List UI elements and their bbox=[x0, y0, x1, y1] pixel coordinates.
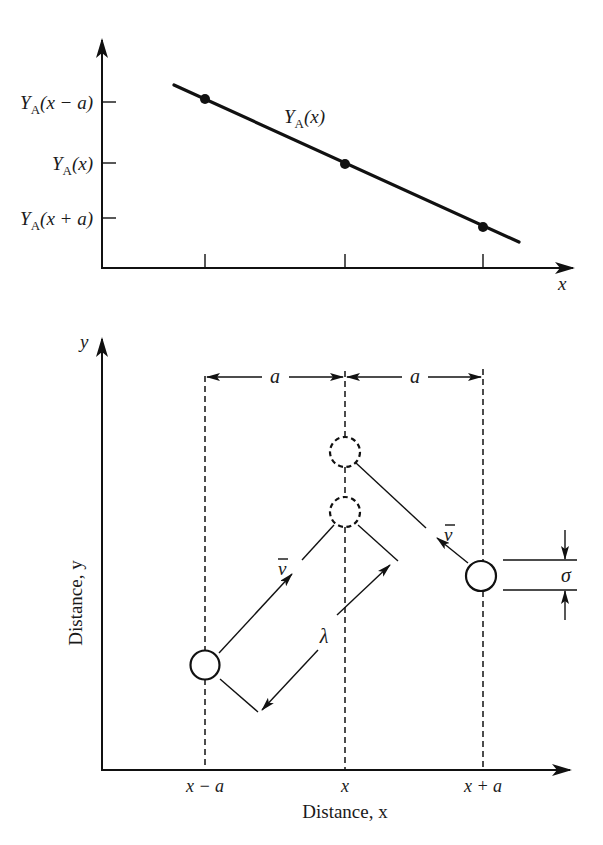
y-tick-label-3: YA(x + a) bbox=[20, 208, 93, 233]
y-axis-symbol: y bbox=[78, 331, 89, 352]
molecule-right bbox=[466, 561, 496, 591]
spacing-label-2: a bbox=[410, 365, 420, 387]
y-tick-label-1: YA(x − a) bbox=[20, 92, 93, 117]
data-point-1 bbox=[200, 94, 210, 104]
top-x-axis-label: x bbox=[557, 273, 567, 294]
velocity-path-right-upper bbox=[356, 463, 426, 528]
molecule-displaced-mid bbox=[330, 497, 360, 527]
velocity-label-right: v bbox=[444, 524, 453, 545]
molecular-transport-diagram: YA(x − a) YA(x) YA(x + a) YA(x) x y Dist… bbox=[0, 0, 603, 845]
x-tick-label-2: x bbox=[340, 776, 349, 796]
lambda-ext-bottom bbox=[220, 679, 258, 712]
top-plot: YA(x − a) YA(x) YA(x + a) YA(x) x bbox=[20, 40, 573, 294]
velocity-label-left: v bbox=[278, 558, 287, 579]
x-tick-label-3: x + a bbox=[463, 776, 502, 796]
molecule-origin bbox=[191, 651, 220, 680]
velocity-path-left bbox=[219, 574, 292, 653]
curve-label: YA(x) bbox=[284, 106, 325, 131]
x-axis-label: Distance, x bbox=[302, 801, 388, 822]
lambda-arrow-down bbox=[262, 650, 318, 710]
free-path-label: λ bbox=[319, 625, 329, 647]
x-tick-label-1: x − a bbox=[185, 776, 224, 796]
velocity-path-left-upper bbox=[302, 525, 334, 560]
diameter-label: σ bbox=[561, 564, 572, 586]
molecule-displaced-upper bbox=[330, 437, 360, 467]
bottom-plot: y Distance, y a a v λ bbox=[65, 331, 577, 822]
y-tick-label-2: YA(x) bbox=[52, 153, 93, 178]
data-point-3 bbox=[478, 222, 488, 232]
spacing-label-1: a bbox=[270, 365, 280, 387]
lambda-ext-top bbox=[358, 525, 398, 561]
velocity-path-right bbox=[437, 538, 468, 563]
data-point-2 bbox=[340, 159, 350, 169]
y-axis-label: Distance, y bbox=[65, 560, 86, 646]
